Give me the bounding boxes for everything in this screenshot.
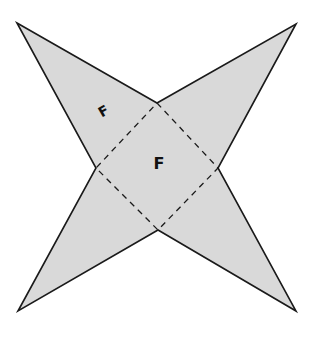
pyramid-net-diagram: F F — [0, 0, 312, 337]
face-label-base: F — [154, 154, 165, 173]
